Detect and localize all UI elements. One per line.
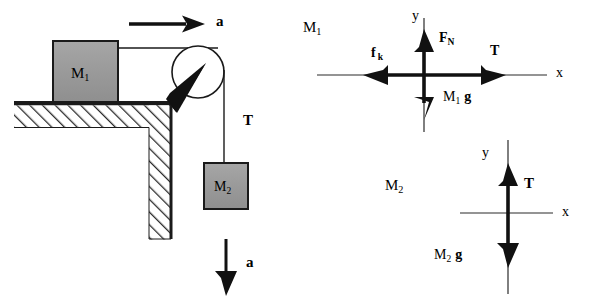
fbd-m1-normal-force-label-sub: N	[448, 37, 455, 47]
fbd-m2-body-label: M2	[385, 178, 403, 195]
fbd-m2-weight-label-tail: g	[455, 247, 462, 262]
fbd-m1-weight-label-tail: g	[464, 89, 471, 104]
fbd-m1-friction-arrow	[363, 65, 424, 85]
fbd-m1-weight-label-main: M	[443, 89, 455, 104]
fbd-m1-weight-label-sub: 1	[455, 96, 460, 106]
fbd-m2-body-label-main: M	[385, 177, 398, 193]
fbd-m1-weight-label: M1g	[443, 90, 471, 106]
block-m1-label-sub: 1	[84, 72, 89, 83]
system-tension-label: T	[243, 113, 253, 128]
hatched-wall	[149, 103, 171, 240]
fbd-m1-tension-arrow	[424, 65, 506, 85]
fbd-m2-tension-arrow	[498, 163, 518, 213]
fbd-m2-axis-x-label: x	[562, 205, 569, 219]
fbd-m1-friction-label-main: f	[371, 45, 376, 60]
fbd-m2-body-label-sub: 2	[398, 184, 403, 195]
fbd-m1-normal-force-arrow	[414, 29, 434, 75]
fbd-m2-weight-label-main: M	[434, 247, 446, 262]
fbd-m1-body-label-main: M	[303, 19, 316, 35]
accel-top-label: a	[216, 14, 224, 29]
block-m2-label-sub: 2	[226, 186, 231, 196]
fbd-m1-friction-label: fk	[371, 46, 383, 62]
fbd-m1-friction-label-sub: k	[378, 52, 383, 62]
block-m1-label: M1	[71, 66, 89, 83]
diagram-vector-layer	[0, 0, 604, 306]
fbd-m2-weight-label: M2g	[434, 248, 462, 264]
fbd-m1-axis-x-label: x	[556, 66, 563, 80]
fbd-m1-body-label: M1	[303, 20, 321, 37]
fbd-m2-axis-y-label: y	[482, 146, 489, 160]
fbd-m2-weight-label-sub: 2	[446, 254, 451, 264]
fbd-m1-tension-label: T	[490, 44, 499, 58]
fbd-m2-weight-arrow	[497, 213, 519, 268]
fbd-m1-normal-force-label: FN	[439, 31, 454, 47]
arrow-a-top	[129, 16, 205, 33]
fbd-m1-axis-y-label: y	[412, 9, 419, 23]
fbd-m1-body-label-sub: 1	[316, 26, 321, 37]
block-m2-label: M2	[214, 180, 231, 196]
fbd-m2-tension-label: T	[524, 176, 534, 191]
accel-bottom-label: a	[246, 255, 254, 270]
arrow-a-bottom	[215, 239, 237, 296]
block-m2-label-main: M	[214, 179, 226, 194]
hatched-table	[14, 101, 171, 128]
fbd-m1-normal-force-label-main: F	[439, 30, 448, 45]
figure-canvas: M1 M2 T a a M1 y x FN T fk M1g M2 y x T …	[0, 0, 604, 306]
block-m1-label-main: M	[71, 65, 84, 81]
